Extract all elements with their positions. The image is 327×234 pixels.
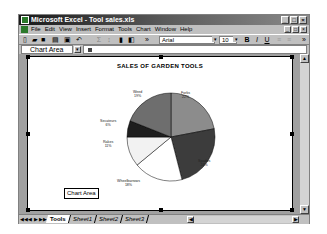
menu-format[interactable]: Format — [95, 25, 114, 34]
label-rakes-pct: 11% — [103, 144, 113, 148]
close-button[interactable]: × — [299, 16, 307, 24]
size-dropdown-arrow-icon[interactable]: ▾ — [233, 36, 239, 42]
menu-view[interactable]: View — [59, 25, 72, 34]
tab-sheet1-label: Sheet1 — [73, 215, 92, 223]
menu-insert[interactable]: Insert — [76, 25, 91, 34]
align-left-icon[interactable]: ≡ — [275, 36, 283, 44]
menu-window[interactable]: Window — [155, 25, 176, 34]
tab-sheet3-label: Sheet3 — [125, 215, 144, 223]
name-box[interactable]: Chart Area — [21, 45, 73, 54]
formula-bar[interactable] — [83, 45, 307, 54]
tab-tools[interactable]: Tools — [46, 215, 71, 223]
window-title: Microsoft Excel - Tool sales.xls — [31, 16, 134, 23]
tab-sheet2-label: Sheet2 — [99, 215, 118, 223]
tab-sheet1[interactable]: Sheet1 — [68, 215, 96, 223]
open-folder-icon[interactable]: ▰ — [30, 36, 38, 44]
sheet-tab-bar: ◀◀ ◀ ▶ ▶▶ Tools Sheet1 Sheet2 Sheet3 ◀ ▶ — [19, 214, 309, 224]
tab-tools-label: Tools — [50, 215, 66, 223]
save-icon[interactable]: ■ — [39, 36, 47, 44]
sheet-area: SALES OF GARDEN TOOLS Forks 22% Spades 2… — [19, 54, 309, 214]
chart-area[interactable]: SALES OF GARDEN TOOLS Forks 22% Spades 2… — [27, 56, 293, 211]
label-forks: Forks 22% — [181, 91, 190, 99]
horizontal-scrollbar[interactable]: ◀ ▶ — [187, 216, 299, 223]
last-sheet-icon[interactable]: ▶▶ — [39, 216, 45, 223]
doc-restore-button[interactable]: □ — [292, 26, 299, 33]
scroll-right-icon[interactable]: ▶ — [292, 216, 299, 223]
formula-edit-icon[interactable] — [88, 48, 92, 52]
print-preview-icon[interactable]: ▣ — [63, 36, 71, 44]
vertical-scrollbar[interactable]: ▲ ▼ — [300, 54, 309, 214]
label-weed-pct: 19% — [133, 94, 142, 98]
menu-file[interactable]: File — [31, 25, 41, 34]
underline-button[interactable]: U — [263, 36, 271, 44]
font-dropdown-arrow-icon[interactable]: ▾ — [212, 36, 218, 42]
excel-app-icon — [21, 16, 29, 24]
excel-window: Microsoft Excel - Tool sales.xls _ □ × F… — [18, 14, 310, 224]
menu-chart[interactable]: Chart — [136, 25, 151, 34]
sum-icon[interactable]: Σ — [95, 36, 103, 44]
title-bar: Microsoft Excel - Tool sales.xls _ □ × — [19, 15, 309, 25]
label-forks-pct: 22% — [181, 95, 190, 99]
bold-button[interactable]: B — [243, 36, 251, 44]
font-name-field[interactable]: Arial — [159, 36, 215, 44]
chart-area-tooltip: Chart Area — [64, 188, 99, 199]
label-spades: Spades 24% — [198, 159, 210, 167]
label-weed: Weed 19% — [133, 90, 142, 98]
label-secateurs-pct: 6% — [100, 123, 116, 127]
label-wheelbarrows-pct: 18% — [117, 183, 140, 187]
workbook-icon[interactable] — [21, 26, 28, 33]
scroll-down-icon[interactable]: ▼ — [300, 205, 309, 214]
scroll-left-icon[interactable]: ◀ — [187, 216, 194, 223]
chart-wizard-icon[interactable]: ▮ — [117, 36, 125, 44]
label-spades-pct: 24% — [198, 163, 210, 167]
label-wheelbarrows: Wheelbarrows 18% — [117, 179, 140, 187]
new-file-icon[interactable]: ▯ — [21, 36, 29, 44]
align-center-icon[interactable]: ≡ — [285, 36, 293, 44]
undo-icon[interactable]: ↶ — [75, 36, 83, 44]
toolbar-overflow-icon[interactable]: » — [143, 36, 151, 44]
sort-icon[interactable]: ↕ — [105, 36, 113, 44]
tab-sheet2[interactable]: Sheet2 — [95, 215, 123, 223]
menu-bar: File Edit View Insert Format Tools Chart… — [19, 25, 309, 34]
first-sheet-icon[interactable]: ◀◀ — [20, 216, 26, 223]
label-rakes: Rakes 11% — [103, 140, 113, 148]
maximize-button[interactable]: □ — [290, 16, 298, 24]
scroll-up-icon[interactable]: ▲ — [300, 54, 309, 63]
menu-help[interactable]: Help — [180, 25, 192, 34]
label-secateurs: Secateurs 6% — [100, 119, 116, 127]
doc-minimize-button[interactable]: _ — [284, 26, 291, 33]
doc-close-button[interactable]: × — [300, 26, 307, 33]
name-box-dropdown-icon[interactable]: ▾ — [74, 46, 81, 53]
name-formula-bar: Chart Area ▾ — [19, 45, 309, 54]
minimize-button[interactable]: _ — [281, 16, 289, 24]
drawing-icon[interactable]: ◧ — [127, 36, 135, 44]
menu-edit[interactable]: Edit — [45, 25, 55, 34]
tab-sheet3[interactable]: Sheet3 — [121, 215, 149, 223]
standard-toolbar: ▯ ▰ ■ ▤ ▣ ↶ Σ ↕ ▮ ◧ » Arial ▾ 10 ▾ B I U… — [19, 34, 309, 45]
print-icon[interactable]: ▤ — [51, 36, 59, 44]
italic-button[interactable]: I — [253, 36, 261, 44]
toolbar-overflow-right-icon[interactable]: » — [300, 36, 308, 44]
menu-tools[interactable]: Tools — [118, 25, 132, 34]
